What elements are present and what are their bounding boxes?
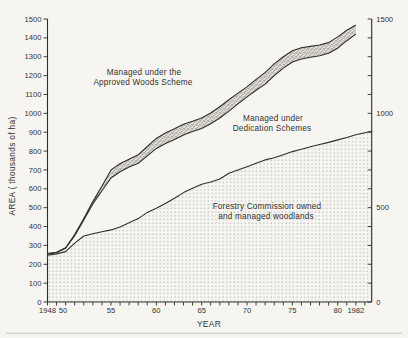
- y-left-tick-label: 200: [29, 260, 42, 269]
- x-axis-title: YEAR: [197, 319, 221, 329]
- annotation-line: Dedication Schemes: [233, 124, 312, 133]
- y-right-tick-label: 1000: [376, 109, 393, 118]
- x-tick-label: 1948: [39, 306, 56, 315]
- annotation-approved-woods-scheme: Managed under the Approved Woods Scheme: [93, 68, 192, 87]
- y-left-tick-label: 1100: [25, 90, 41, 99]
- x-tick-label: 55: [107, 306, 115, 315]
- y-right-tick-label: 0: [376, 298, 380, 307]
- y-left-tick-label: 1000: [25, 109, 42, 118]
- y-left-tick-label: 1200: [25, 71, 42, 80]
- annotation-dedication-schemes: Managed under Dedication Schemes: [233, 114, 312, 133]
- y-left-tick-label: 1500: [25, 15, 42, 24]
- y-axis-title: AREA ( thousands of ha): [7, 116, 17, 215]
- y-left-tick-label: 100: [29, 279, 42, 288]
- annotation-line: and managed woodlands: [218, 212, 314, 221]
- annotation-line: Managed under: [243, 114, 303, 123]
- y-left-tick-label: 900: [29, 128, 42, 137]
- y-left-tick-label: 300: [29, 241, 42, 250]
- x-tick-label: 60: [152, 306, 160, 315]
- forestry-area-chart-figure: 1948505560657075801982010020030040050060…: [0, 0, 408, 338]
- annotation-line: Forestry Commission owned: [213, 202, 322, 211]
- x-tick-label: 1982: [347, 306, 364, 315]
- x-tick-label: 50: [59, 306, 67, 315]
- annotation-forestry-commission: Forestry Commission owned and managed wo…: [213, 202, 322, 221]
- y-left-tick-label: 1300: [25, 52, 42, 61]
- y-left-tick-label: 0: [37, 298, 41, 307]
- forestry-commission-area-fill: [48, 131, 372, 302]
- annotation-line: Managed under the: [107, 68, 182, 77]
- y-right-tick-label: 500: [376, 203, 389, 212]
- x-tick-label: 80: [333, 306, 341, 315]
- x-tick-label: 65: [197, 306, 205, 315]
- y-right-tick-label: 1500: [376, 15, 393, 24]
- area-chart: 1948505560657075801982010020030040050060…: [0, 0, 408, 338]
- y-left-tick-label: 1400: [25, 33, 42, 42]
- plot-area-fills: [48, 25, 372, 302]
- annotation-line: Approved Woods Scheme: [93, 78, 192, 87]
- y-left-tick-label: 700: [29, 166, 42, 175]
- y-left-tick-label: 400: [29, 222, 42, 231]
- y-left-tick-label: 600: [29, 184, 42, 193]
- x-tick-label: 75: [288, 306, 296, 315]
- y-left-tick-label: 800: [29, 147, 42, 156]
- x-tick-label: 70: [243, 306, 251, 315]
- y-left-tick-label: 500: [29, 203, 42, 212]
- page-bottom-scan-artifact: [6, 333, 402, 335]
